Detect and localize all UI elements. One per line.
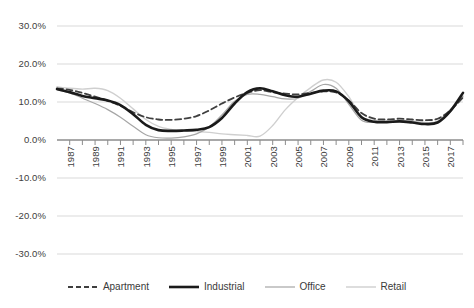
y-axis-tick-label: 0.0% [2,134,46,145]
y-axis-tick-label: -10.0% [2,172,46,183]
legend-label: Apartment [103,281,149,292]
x-axis-tick-label: 1991 [115,146,126,168]
legend-label: Industrial [204,281,245,292]
x-axis-tick-label: 2011 [369,146,380,167]
legend-swatch-apartment [68,282,98,292]
series-line-office [57,84,463,138]
x-axis-tick-label: 1993 [141,146,152,168]
x-axis-tick-label: 2015 [420,146,431,168]
x-axis-tick-label: 2001 [242,146,253,168]
x-axis-tick-label: 2003 [268,146,279,168]
x-axis-tick-label: 1987 [65,146,76,168]
line-chart: 30.0%20.0%10.0%0.0%-10.0%-20.0%-30.0% 19… [0,0,474,308]
legend-swatch-industrial [169,282,199,292]
x-axis-tick-label: 1997 [192,146,203,168]
x-axis-tick-label: 1995 [166,146,177,168]
x-axis-tick-label: 2013 [395,146,406,168]
x-axis-tick-label: 2005 [293,146,304,168]
legend-item-apartment[interactable]: Apartment [68,281,149,292]
y-axis-tick-label: -20.0% [2,210,46,221]
y-axis-tick-label: 30.0% [2,20,46,31]
legend-label: Retail [381,281,407,292]
x-axis-tick-label: 1989 [90,146,101,168]
y-axis-tick-label: 20.0% [2,58,46,69]
x-axis-tick-label: 2017 [445,146,456,168]
y-axis-tick-label: -30.0% [2,248,46,259]
legend-swatch-retail [346,282,376,292]
x-axis-tick-label: 1999 [217,146,228,168]
legend-swatch-office [265,282,295,292]
legend-label: Office [300,281,326,292]
chart-legend: ApartmentIndustrialOfficeRetail [0,281,474,292]
x-axis-tick-label: 2007 [318,146,329,168]
x-axis-tick-label: 2009 [344,146,355,168]
legend-item-office[interactable]: Office [265,281,326,292]
y-axis-tick-label: 10.0% [2,96,46,107]
legend-item-industrial[interactable]: Industrial [169,281,245,292]
legend-item-retail[interactable]: Retail [346,281,407,292]
